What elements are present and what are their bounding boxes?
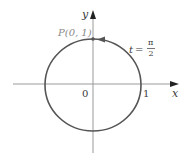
x-axis	[13, 81, 179, 87]
parameter-variable: t	[129, 44, 134, 55]
diagram-canvas: y x 0 1 P(0, 1) t = π 2	[0, 0, 192, 163]
parameter-denominator: 2	[149, 49, 154, 58]
point-p-label: P(0, 1)	[57, 27, 92, 38]
parameter-numerator: π	[148, 38, 153, 47]
parameter-label: t = π 2	[129, 38, 155, 58]
y-axis-label: y	[81, 8, 89, 21]
origin-label: 0	[82, 88, 88, 99]
unit-circle-diagram: y x 0 1 P(0, 1) t = π 2	[0, 0, 192, 163]
point-p	[91, 37, 95, 41]
y-axis-arrow-icon	[90, 10, 96, 19]
parameter-equals: =	[135, 44, 143, 55]
direction-arrow-icon	[97, 37, 105, 43]
x-axis-label: x	[172, 87, 179, 100]
x-tick-label-1: 1	[143, 88, 149, 99]
